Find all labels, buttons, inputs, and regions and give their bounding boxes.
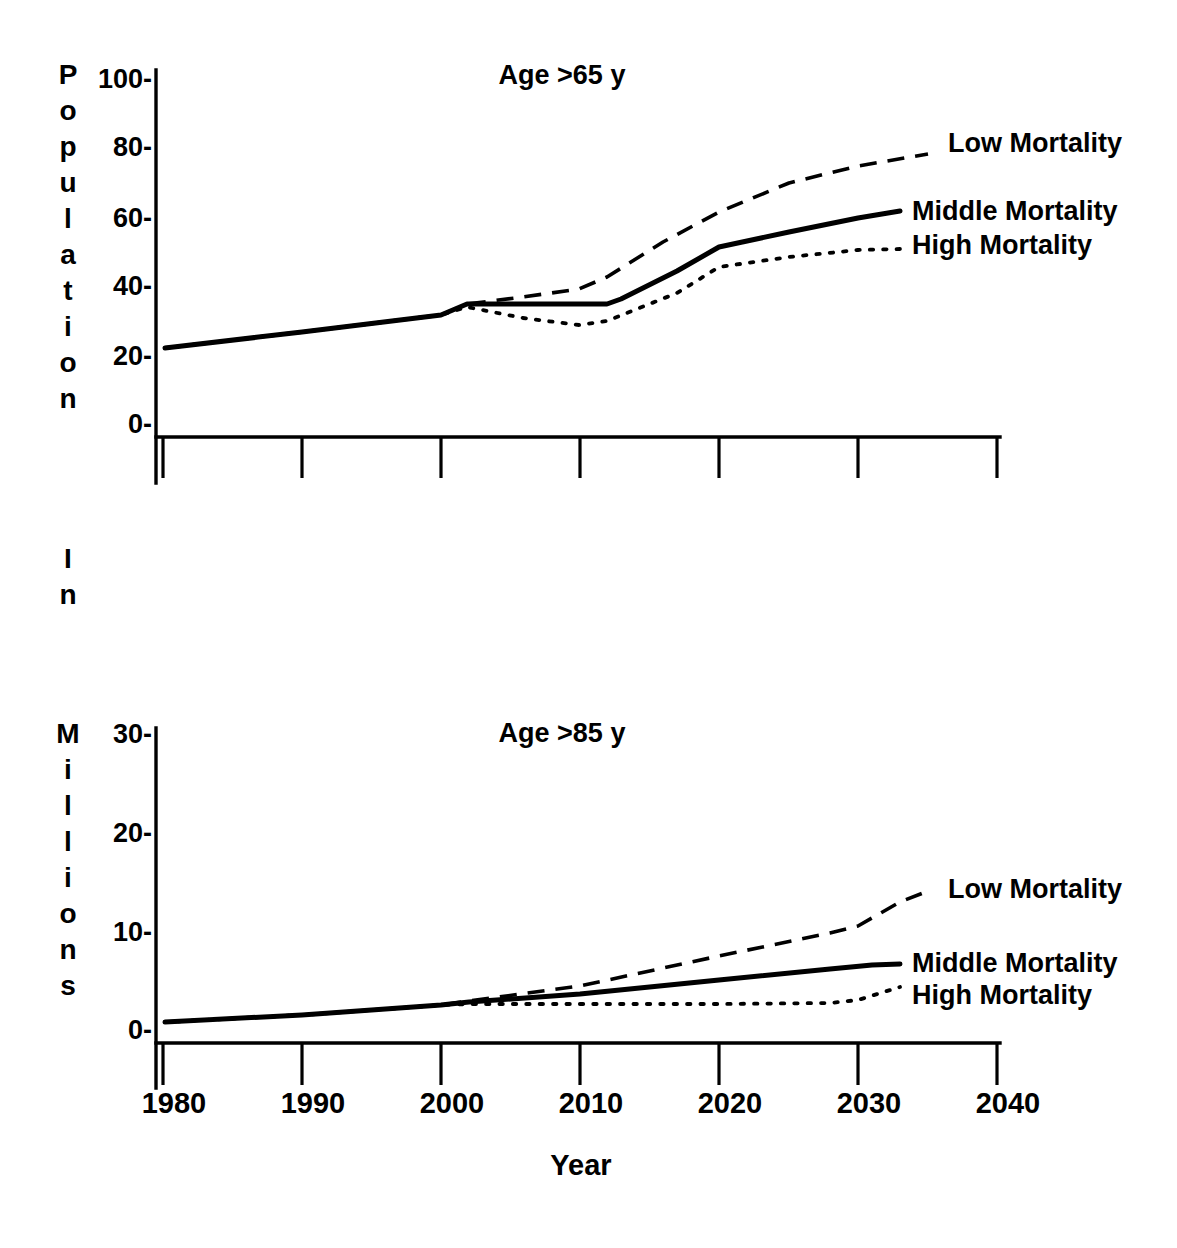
bottom-legend-label-low-mortality: Low Mortality (948, 874, 1122, 904)
y-tick-label: 10- (113, 917, 152, 947)
x-tick-labels: 1980 1990 2000 2010 2020 2030 2040 (142, 1087, 1041, 1119)
y-tick-label: 80- (113, 132, 152, 162)
x-tick-label: 2020 (698, 1087, 763, 1119)
y-tick-label: 40- (113, 271, 152, 301)
y-axis-title-char: i (64, 311, 72, 342)
y-tick-label: 60- (113, 203, 152, 233)
top-panel-x-ticks (163, 437, 997, 478)
bottom-panel: 30- 20- 10- 0- Age >85 y Low Mortality M… (113, 718, 1122, 1088)
y-axis-title-char: n (59, 934, 76, 965)
y-tick-label: 0- (128, 1015, 152, 1045)
x-tick-label: 2010 (559, 1087, 624, 1119)
x-tick-label: 2030 (837, 1087, 902, 1119)
top-series-middle-mortality (165, 211, 900, 348)
bottom-legend-label-high-mortality: High Mortality (912, 980, 1092, 1010)
y-tick-label: 30- (113, 719, 152, 749)
y-tick-label: 20- (113, 818, 152, 848)
y-axis-title-char: l (64, 826, 72, 857)
y-axis-title-char: n (59, 383, 76, 414)
y-tick-label: 0- (128, 409, 152, 439)
y-axis-title-char: p (59, 131, 76, 162)
x-tick-label: 1990 (281, 1087, 346, 1119)
x-tick-label: 2040 (976, 1087, 1041, 1119)
population-projection-figure: 100- 80- 60- 40- 20- 0- Age >65 y Low Mo… (0, 0, 1177, 1248)
y-axis-title-char: s (60, 970, 76, 1001)
x-tick-label: 1980 (142, 1087, 207, 1119)
y-axis-title-char: I (64, 543, 72, 574)
top-series-low-mortality (165, 154, 928, 348)
x-tick-label: 2000 (420, 1087, 485, 1119)
y-axis-title: P o p u l a t i o n I n M i l l i o n s (56, 59, 79, 1001)
x-axis-title: Year (550, 1149, 611, 1181)
y-tick-label: 100- (98, 64, 152, 94)
bottom-panel-x-ticks (163, 1043, 997, 1085)
top-panel-y-tick-labels: 100- 80- 60- 40- 20- 0- (98, 64, 152, 439)
y-axis-title-char: o (59, 95, 76, 126)
y-axis-title-char: i (64, 862, 72, 893)
y-axis-title-char: M (56, 718, 79, 749)
y-axis-title-char: a (60, 239, 76, 270)
y-axis-title-char: l (64, 790, 72, 821)
y-axis-title-char: u (59, 167, 76, 198)
y-axis-title-char: n (59, 579, 76, 610)
bottom-panel-title: Age >85 y (499, 718, 626, 748)
bottom-legend-label-middle-mortality: Middle Mortality (912, 948, 1118, 978)
y-axis-title-char: i (64, 754, 72, 785)
y-axis-title-char: l (64, 203, 72, 234)
y-axis-title-char: t (63, 275, 72, 306)
y-axis-title-char: o (59, 898, 76, 929)
top-panel: 100- 80- 60- 40- 20- 0- Age >65 y Low Mo… (98, 60, 1122, 483)
y-tick-label: 20- (113, 341, 152, 371)
top-legend-label-middle-mortality: Middle Mortality (912, 196, 1118, 226)
bottom-panel-y-tick-labels: 30- 20- 10- 0- (113, 719, 152, 1045)
bottom-series-low-mortality (165, 891, 928, 1022)
top-legend-label-high-mortality: High Mortality (912, 230, 1092, 260)
top-panel-title: Age >65 y (499, 60, 626, 90)
y-axis-title-char: o (59, 347, 76, 378)
top-legend-label-low-mortality: Low Mortality (948, 128, 1122, 158)
y-axis-title-char: P (59, 59, 78, 90)
